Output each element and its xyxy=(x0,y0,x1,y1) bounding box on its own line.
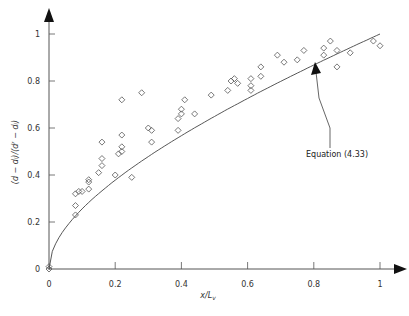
x-tick-label: 1 xyxy=(377,280,382,289)
annotation-leader-line xyxy=(316,72,330,148)
data-point-marker xyxy=(139,90,145,96)
annotation-label: Equation (4.33) xyxy=(306,150,368,159)
data-point-marker xyxy=(86,177,92,183)
y-tick-label: 1 xyxy=(35,30,40,39)
data-point-marker xyxy=(99,139,105,145)
data-point-marker xyxy=(119,132,125,138)
data-point-marker xyxy=(225,87,231,93)
data-point-marker xyxy=(235,80,241,86)
data-point-marker xyxy=(96,170,102,176)
data-point-marker xyxy=(149,139,155,145)
data-point-marker xyxy=(175,127,181,133)
data-point-marker xyxy=(99,163,105,169)
x-tick-label: 0.2 xyxy=(109,280,122,289)
data-point-marker xyxy=(347,50,353,56)
x-tick-label: 0.6 xyxy=(241,280,254,289)
data-point-marker xyxy=(192,111,198,117)
y-tick-label: 0.4 xyxy=(27,171,40,180)
y-axis-arrow-icon xyxy=(44,8,54,22)
data-point-marker xyxy=(281,59,287,65)
data-point-marker xyxy=(321,52,327,58)
data-point-marker xyxy=(327,38,333,44)
annotation-arrow-icon xyxy=(311,62,321,75)
x-axis-label: x/Lv xyxy=(199,291,216,301)
data-point-marker xyxy=(294,57,300,63)
x-tick-label: 0 xyxy=(46,280,51,289)
data-point-marker xyxy=(129,174,135,180)
y-tick-label: 0.8 xyxy=(27,77,40,86)
y-ticks: 00.20.40.60.81 xyxy=(27,30,55,274)
y-tick-label: 0 xyxy=(35,265,40,274)
y-axis-label: (d − dᵢ)/(dᶠ − dᵢ) xyxy=(11,120,20,184)
x-tick-label: 0.8 xyxy=(307,280,320,289)
x-ticks: 00.20.40.60.81 xyxy=(46,262,382,289)
data-point-marker xyxy=(274,52,280,58)
data-point-marker xyxy=(301,47,307,53)
data-point-marker xyxy=(175,116,181,122)
y-tick-label: 0.2 xyxy=(27,218,40,227)
data-point-marker xyxy=(72,212,78,218)
data-point-marker xyxy=(258,64,264,70)
data-point-marker xyxy=(72,203,78,209)
data-point-marker xyxy=(99,156,105,162)
data-point-marker xyxy=(208,92,214,98)
data-point-marker xyxy=(370,38,376,44)
data-point-marker xyxy=(248,76,254,82)
x-axis-arrow-icon xyxy=(394,264,407,274)
data-point-marker xyxy=(112,172,118,178)
chart-canvas: 00.20.40.60.81 00.20.40.60.81 Equation (… xyxy=(0,0,409,316)
data-point-marker xyxy=(321,45,327,51)
annotation: Equation (4.33) xyxy=(306,62,368,159)
x-tick-label: 0.4 xyxy=(175,280,188,289)
y-tick-label: 0.6 xyxy=(27,124,40,133)
data-point-marker xyxy=(334,64,340,70)
data-point-marker xyxy=(258,73,264,79)
data-point-marker xyxy=(182,97,188,103)
data-point-marker xyxy=(86,179,92,185)
data-point-marker xyxy=(86,186,92,192)
data-point-marker xyxy=(119,97,125,103)
data-point-marker xyxy=(377,43,383,49)
